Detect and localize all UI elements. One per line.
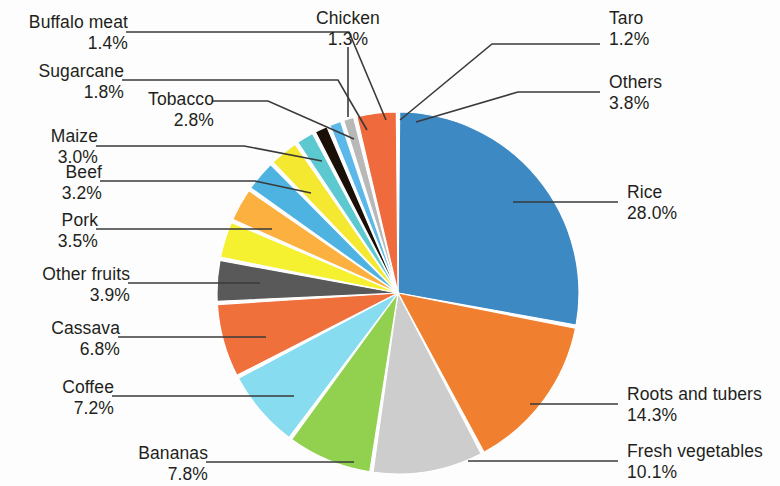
callout-fresh-vegetables: Fresh vegetables 10.1% (627, 441, 780, 483)
callout-pork: Pork 3.5% (0, 210, 98, 252)
callout-taro: Taro 1.2% (609, 8, 769, 50)
callout-rice: Rice 28.0% (627, 182, 777, 224)
callout-buffalo-meat: Buffalo meat 1.4% (0, 12, 128, 54)
callout-other-fruits: Other fruits 3.9% (0, 264, 130, 306)
pie-slices-group (217, 112, 579, 474)
callout-others-category: Others (609, 72, 769, 93)
callout-coffee-percent: 7.2% (0, 398, 114, 419)
callout-roots-and-tubers-percent: 14.3% (627, 405, 780, 426)
callout-rice-percent: 28.0% (627, 203, 777, 224)
callout-tobacco-percent: 2.8% (84, 110, 214, 131)
callout-chicken-percent: 1.3% (288, 29, 408, 50)
callout-other-fruits-percent: 3.9% (0, 285, 130, 306)
pie-slice-rice (398, 112, 579, 325)
callout-roots-and-tubers-category: Roots and tubers (627, 384, 780, 405)
callout-fresh-vegetables-category: Fresh vegetables (627, 441, 780, 462)
callout-others: Others 3.8% (609, 72, 769, 114)
callout-cassava-category: Cassava (0, 318, 120, 339)
callout-chicken: Chicken 1.3% (288, 8, 408, 50)
callout-cassava-percent: 6.8% (0, 339, 120, 360)
callout-cassava: Cassava 6.8% (0, 318, 120, 360)
callout-beef-category: Beef (0, 162, 102, 183)
callout-sugarcane-category: Sugarcane (0, 61, 124, 82)
callout-chicken-category: Chicken (288, 8, 408, 29)
callout-other-fruits-category: Other fruits (0, 264, 130, 285)
callout-bananas-percent: 7.8% (86, 464, 208, 485)
leader-line-taro (400, 44, 600, 120)
callout-fresh-vegetables-percent: 10.1% (627, 462, 780, 483)
callout-beef-percent: 3.2% (0, 183, 102, 204)
callout-tobacco-category: Tobacco (84, 89, 214, 110)
callout-maize-category: Maize (0, 126, 98, 147)
callout-tobacco: Tobacco 2.8% (84, 89, 214, 131)
callout-beef: Beef 3.2% (0, 162, 102, 204)
callout-coffee: Coffee 7.2% (0, 377, 114, 419)
callout-bananas: Bananas 7.8% (86, 443, 208, 485)
callout-buffalo-meat-percent: 1.4% (0, 33, 128, 54)
callout-coffee-category: Coffee (0, 377, 114, 398)
callout-bananas-category: Bananas (86, 443, 208, 464)
callout-others-percent: 3.8% (609, 93, 769, 114)
callout-pork-percent: 3.5% (0, 231, 98, 252)
callout-taro-category: Taro (609, 8, 769, 29)
pie-chart-figure: Buffalo meat 1.4% Sugarcane 1.8% Tobacco… (0, 0, 780, 486)
callout-pork-category: Pork (0, 210, 98, 231)
callout-roots-and-tubers: Roots and tubers 14.3% (627, 384, 780, 426)
callout-buffalo-meat-category: Buffalo meat (0, 12, 128, 33)
callout-taro-percent: 1.2% (609, 29, 769, 50)
callout-rice-category: Rice (627, 182, 777, 203)
